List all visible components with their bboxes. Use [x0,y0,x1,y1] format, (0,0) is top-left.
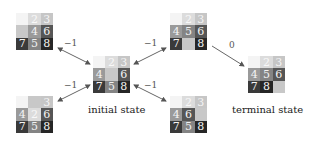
empty-tile [182,38,194,50]
tile: 2 [28,108,40,120]
tile: 3 [41,96,53,108]
tile: 1 [16,96,28,108]
edge-label-bottomleft: −1 [64,80,77,90]
tile: 1 [170,13,182,25]
tile: 1 [248,56,260,68]
puzzle-state-top-left: 12346758 [16,13,53,50]
tile: 5 [28,38,40,50]
tile: 3 [118,56,130,68]
tile: 5 [260,68,272,80]
edge-initial-topleft [58,48,90,64]
tile: 4 [170,108,182,120]
edge-topcenter-terminal [212,46,244,66]
tile: 8 [41,121,53,133]
puzzle-state-bottom-left: 13426758 [16,96,53,133]
empty-tile [273,81,285,93]
tile: 8 [195,121,207,133]
empty-tile [16,25,28,37]
tile: 3 [41,13,53,25]
puzzle-state-bottom-center: 12346758 [170,96,207,133]
edge-initial-topcenter [134,48,166,64]
tile: 2 [105,56,117,68]
puzzle-state-terminal: 12345678 [248,56,285,93]
tile: 6 [273,68,285,80]
puzzle-state-top-center: 12345678 [170,13,207,50]
tile: 8 [41,38,53,50]
tile: 5 [105,81,117,93]
tile: 5 [182,25,194,37]
tile: 7 [93,81,105,93]
tile: 7 [16,121,28,133]
edge-label-topcenter: −1 [144,38,157,48]
tile: 2 [182,96,194,108]
edge-label-terminal: 0 [229,40,235,50]
tile: 7 [170,121,182,133]
tile: 8 [118,81,130,93]
tile: 2 [260,56,272,68]
tile: 3 [195,96,207,108]
tile: 2 [28,13,40,25]
tile: 1 [16,13,28,25]
tile: 4 [248,68,260,80]
tile: 6 [41,25,53,37]
tile: 8 [195,38,207,50]
tile: 4 [16,108,28,120]
initial-state-label: initial state [88,104,145,115]
empty-tile [195,108,207,120]
tile: 7 [170,38,182,50]
tile: 1 [170,96,182,108]
tile: 6 [182,108,194,120]
tile: 6 [41,108,53,120]
empty-tile [28,96,40,108]
tile: 5 [182,121,194,133]
tile: 5 [28,121,40,133]
tile: 1 [93,56,105,68]
tile: 6 [118,68,130,80]
tile: 7 [16,38,28,50]
empty-tile [105,68,117,80]
tile: 8 [260,81,272,93]
tile: 3 [195,13,207,25]
tile: 4 [93,68,105,80]
tile: 2 [182,13,194,25]
tile: 4 [28,25,40,37]
tile: 7 [248,81,260,93]
tile: 3 [273,56,285,68]
edge-label-bottomcenter: −1 [144,80,157,90]
tile: 4 [170,25,182,37]
puzzle-state-initial: 12346758 [93,56,130,93]
tile: 6 [195,25,207,37]
terminal-state-label: terminal state [232,104,303,115]
edge-label-topleft: −1 [64,38,77,48]
